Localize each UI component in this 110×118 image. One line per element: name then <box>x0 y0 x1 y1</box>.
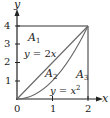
line-eq-var: x <box>51 48 57 59</box>
y-tick-label-1: 1 <box>5 76 11 86</box>
region-a1-letter: A <box>28 31 36 44</box>
parabola-eq-rhs: = <box>56 85 71 96</box>
diagram-canvas <box>0 0 110 118</box>
parabola-eq-exp: 2 <box>76 84 80 92</box>
region-a3-sub: 3 <box>84 74 88 82</box>
region-a1-sub: 1 <box>36 37 40 45</box>
y-tick-label-4: 4 <box>4 21 10 31</box>
line-eq-rhs: = 2 <box>30 48 51 59</box>
line-equation-label: y = 2x <box>24 49 56 59</box>
x-tick-label-0: 0 <box>14 104 20 114</box>
y-tick-label-3: 3 <box>4 39 10 49</box>
x-axis-label: x <box>102 93 108 104</box>
x-tick-label-1: 1 <box>50 104 56 114</box>
region-a2-sub: 2 <box>53 73 57 81</box>
region-a2-label: A2 <box>45 68 57 81</box>
region-a3-letter: A <box>76 68 84 81</box>
parabola-equation-label: y = x2 <box>50 85 81 96</box>
x-tick-label-2: 2 <box>85 104 91 114</box>
region-a1-label: A1 <box>28 32 40 45</box>
region-a2-letter: A <box>45 67 53 80</box>
y-tick-label-2: 2 <box>4 57 10 67</box>
region-a3-label: A3 <box>76 69 88 82</box>
y-axis-label: y <box>14 0 20 10</box>
